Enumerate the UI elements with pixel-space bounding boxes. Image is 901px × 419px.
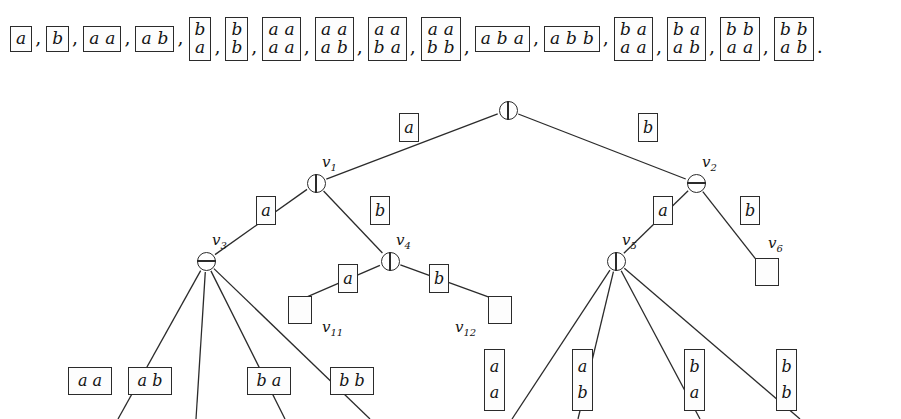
tile-letter: a: [658, 203, 668, 219]
tile-letter: a: [78, 373, 88, 389]
node-label-v2: v2: [702, 153, 717, 173]
tile-letter: a: [105, 30, 115, 48]
tile-letter: b: [689, 39, 700, 57]
word-tile: aa: [83, 26, 121, 52]
word-tile: baaa: [614, 17, 653, 61]
tree-node-root[interactable]: [499, 101, 518, 120]
tree-node-v4[interactable]: [381, 252, 400, 271]
sequence-separator: ,: [211, 35, 225, 61]
leaf-word-tile: ab: [572, 349, 593, 411]
tile-letter: a: [195, 39, 205, 57]
sequence-separator: ,: [248, 35, 262, 61]
sequence-separator: ,: [461, 35, 475, 61]
tile-letter: b: [577, 385, 587, 401]
tree-node-v1[interactable]: [307, 174, 326, 193]
tile-letter: b: [689, 359, 699, 375]
empty-leaf-box: [755, 258, 779, 286]
tile-letter: b: [257, 373, 267, 389]
word-tile: ba: [189, 17, 212, 61]
fan-edge-v3-2: [211, 271, 285, 419]
tile-letter: a: [550, 30, 560, 48]
tile-row: b: [375, 203, 385, 219]
word-tile: bbaa: [720, 17, 760, 61]
tile-letter: a: [743, 39, 753, 57]
sequence-item: bbab.: [774, 17, 823, 61]
tile-row: ab: [673, 39, 700, 57]
sequence-item: aaab,: [315, 17, 368, 61]
tile-row: a: [261, 203, 271, 219]
tree-node-v2[interactable]: [687, 174, 706, 193]
tile-row: b: [781, 359, 791, 375]
sequence-item: ba,: [189, 17, 226, 61]
node-label-v1: v1: [322, 153, 337, 173]
sequence-item: baab,: [667, 17, 720, 61]
tile-row: abb: [550, 30, 594, 48]
tile-row: a: [490, 359, 500, 375]
leaf-word-tile: aa: [484, 349, 505, 411]
leaf-word-tile: bb: [330, 367, 374, 395]
tile-row: aa: [727, 39, 753, 57]
edge-label-tile: a: [653, 196, 673, 225]
tile-row: bb: [427, 39, 455, 57]
sequence-item: aba,: [475, 26, 544, 52]
word-tile: aabb: [421, 17, 461, 61]
tile-row: ab: [780, 39, 807, 57]
tile-row: bb: [339, 373, 365, 389]
sequence-item: baaa,: [614, 17, 667, 61]
sequence-separator: ,: [301, 35, 315, 61]
edge-label-tile: b: [429, 264, 449, 293]
tile-letter: a: [780, 39, 790, 57]
figure-canvas: a,b,aa,ab,ba,bb,aaaa,aaab,aaba,aabb,aba,…: [0, 0, 901, 419]
sequence-item: a,: [10, 26, 46, 52]
tree-node-v3[interactable]: [197, 252, 216, 271]
tile-letter: a: [514, 30, 524, 48]
word-tile: abb: [544, 26, 600, 52]
sequence-separator: ,: [600, 26, 614, 52]
tile-letter: a: [620, 39, 630, 57]
tile-letter: a: [138, 373, 148, 389]
leaf-word-tile: ba: [247, 367, 291, 395]
tile-letter: a: [727, 39, 737, 57]
tile-letter: a: [285, 39, 295, 57]
tile-letter: b: [375, 203, 385, 219]
tile-row: a: [490, 385, 500, 401]
tile-letter: a: [16, 30, 26, 48]
word-tile: ab: [135, 26, 174, 52]
node-label-v6: v6: [768, 234, 783, 254]
tile-letter: a: [343, 271, 353, 287]
tile-letter: a: [690, 385, 700, 401]
tile-row: ba: [257, 373, 282, 389]
tile-row: b: [52, 30, 63, 48]
word-tile: b: [46, 26, 69, 52]
tile-row: ab: [141, 30, 168, 48]
tile-letter: a: [391, 39, 401, 57]
sequence-item: bb,: [225, 17, 262, 61]
tile-letter: a: [261, 203, 271, 219]
sequence-item: aaba,: [368, 17, 421, 61]
edge-label-tile: a: [338, 264, 358, 293]
tile-letter: a: [490, 359, 500, 375]
tree-node-v5[interactable]: [607, 252, 626, 271]
node-label-v3: v3: [212, 231, 227, 251]
tile-letter: a: [141, 30, 151, 48]
sequence-separator: ,: [530, 26, 544, 52]
tile-letter: a: [490, 385, 500, 401]
fan-edge-v5-0: [512, 270, 610, 419]
tile-row: ab: [321, 39, 348, 57]
tile-row: a: [16, 30, 26, 48]
word-tile: bbab: [774, 17, 814, 61]
tile-letter: b: [52, 30, 63, 48]
tile-letter: b: [583, 30, 594, 48]
edge-label-tile: a: [399, 113, 419, 142]
node-label-v11: v11: [322, 318, 343, 338]
tile-letter: a: [636, 39, 646, 57]
tile-row: b: [231, 39, 242, 57]
tile-row: a: [343, 271, 353, 287]
tile-letter: b: [497, 30, 508, 48]
word-tile: aaba: [368, 17, 407, 61]
tile-letter: b: [796, 39, 807, 57]
tile-row: a: [404, 120, 414, 136]
node-label-v12: v12: [455, 318, 476, 338]
tile-row: b: [781, 385, 791, 401]
edge-label-tile: b: [370, 196, 390, 225]
